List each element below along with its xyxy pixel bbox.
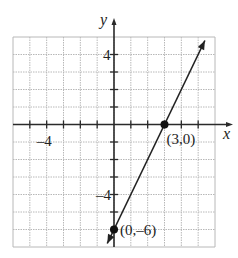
plotted-points: (3,0)(0,–6) [110, 121, 195, 239]
point-label: (0,–6) [120, 222, 156, 239]
point-marker [161, 121, 169, 129]
y-axis-arrow-icon [112, 18, 117, 25]
arrow-up-icon [198, 41, 205, 51]
y-tick-label: 4 [103, 47, 111, 63]
point-label: (3,0) [167, 131, 196, 148]
y-tick-label: –4 [95, 187, 112, 203]
point-marker [110, 226, 118, 234]
x-axis-label: x [222, 125, 230, 142]
y-axis-label: y [98, 11, 108, 29]
x-tick-label: –4 [36, 133, 53, 149]
coordinate-plane: (3,0)(0,–6) –44–4xy [0, 0, 238, 258]
